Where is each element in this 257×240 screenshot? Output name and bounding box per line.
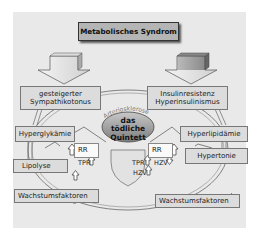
- arrow-down-right: [165, 53, 217, 84]
- cause-right-line2: Hyperinsulinismus: [155, 98, 219, 106]
- effect-lipolyse: Lipolyse: [13, 159, 68, 173]
- up-arrow-icon: [72, 171, 79, 181]
- title-text: Metabolisches Syndrom: [80, 27, 177, 36]
- tpr-left: TPR: [78, 159, 90, 167]
- effect-wachstumsfaktoren-right: Wachstumsfaktoren: [155, 194, 240, 208]
- effect-hyperlipidaemie: Hyperlipidämie: [180, 126, 248, 142]
- effect-hyperglykaemie: Hyperglykämie: [15, 126, 75, 142]
- cause-left-line2: Sympathikotonus: [30, 98, 91, 106]
- title-box: Metabolisches Syndrom: [78, 22, 179, 41]
- effect-hypertonie: Hypertonie: [185, 148, 248, 164]
- rr-box-right: RR: [148, 143, 173, 158]
- cause-box-left: gesteigerter Sympathikotonus: [20, 86, 101, 110]
- hzv-right-1: HZV: [154, 159, 168, 167]
- rr-box-left: RR: [74, 143, 99, 158]
- cause-right-line1: Insulinresistenz: [155, 90, 219, 98]
- tpr-right: TPR: [132, 159, 144, 167]
- arrow-down-left: [38, 53, 90, 84]
- effect-wachstumsfaktoren-left: Wachstumsfaktoren: [14, 189, 99, 203]
- cause-left-line1: gesteigerter: [30, 90, 91, 98]
- cause-box-right: Insulinresistenz Hyperinsulinismus: [147, 86, 228, 110]
- hzv-right-2: HZV: [133, 169, 147, 177]
- ellipse-label: das tödliche Quintett: [103, 117, 153, 142]
